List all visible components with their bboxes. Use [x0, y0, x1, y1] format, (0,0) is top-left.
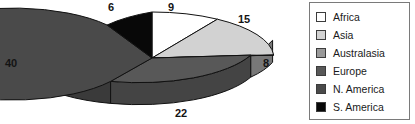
- slice-value-label-africa: 9: [168, 2, 174, 13]
- legend-label-s-america: S. America: [333, 101, 384, 113]
- legend-swatch-asia: [316, 30, 326, 40]
- slice-value-label-australasia: 8: [263, 58, 269, 69]
- pie-svg: [0, 0, 300, 124]
- legend-swatch-n-america: [316, 84, 326, 94]
- chart-legend: Africa Asia Australasia Europe N. Americ…: [309, 2, 410, 120]
- legend-item-europe: Europe: [316, 62, 409, 80]
- legend-label-asia: Asia: [333, 29, 353, 41]
- legend-label-africa: Africa: [333, 11, 360, 23]
- slice-value-label-europe: 22: [175, 108, 187, 119]
- pie-plot-area: 6 9 15 8 22 40: [0, 0, 300, 124]
- legend-label-australasia: Australasia: [333, 47, 385, 59]
- legend-label-n-america: N. America: [333, 83, 384, 95]
- legend-swatch-australasia: [316, 48, 326, 58]
- pie-chart-figure: 6 9 15 8 22 40 Africa Asia Australasia E…: [0, 0, 415, 124]
- legend-item-n-america: N. America: [316, 80, 409, 98]
- legend-item-s-america: S. America: [316, 98, 409, 116]
- legend-swatch-africa: [316, 12, 326, 22]
- legend-item-africa: Africa: [316, 8, 409, 26]
- slice-value-label-s-america: 6: [108, 2, 114, 13]
- slice-value-label-asia: 15: [238, 14, 250, 25]
- slice-value-label-n-america: 40: [5, 58, 17, 69]
- legend-swatch-europe: [316, 66, 326, 76]
- legend-swatch-s-america: [316, 102, 326, 112]
- legend-item-australasia: Australasia: [316, 44, 409, 62]
- legend-item-asia: Asia: [316, 26, 409, 44]
- legend-label-europe: Europe: [333, 65, 367, 77]
